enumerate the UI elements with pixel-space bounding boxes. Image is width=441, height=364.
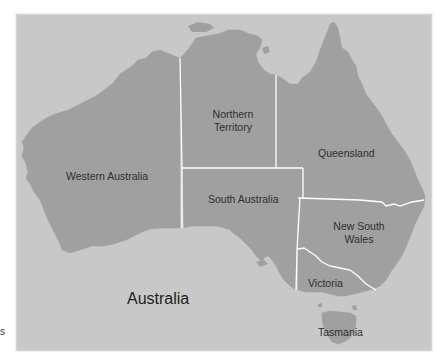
label-western-australia: Western Australia [66, 170, 148, 183]
label-tasmania: Tasmania [318, 326, 363, 339]
label-new-south-wales-line2: Wales [328, 233, 390, 246]
label-queensland: Queensland [318, 147, 375, 160]
label-victoria: Victoria [308, 277, 343, 290]
label-northern-territory: Northern Territory [203, 108, 263, 134]
label-new-south-wales-line1: New South [328, 220, 390, 233]
label-northern-territory-line2: Territory [203, 121, 263, 134]
map-title: Australia [127, 290, 189, 308]
label-south-australia: South Australia [208, 193, 279, 206]
label-northern-territory-line1: Northern [203, 108, 263, 121]
stray-text: s [0, 326, 5, 337]
label-new-south-wales: New South Wales [328, 220, 390, 246]
